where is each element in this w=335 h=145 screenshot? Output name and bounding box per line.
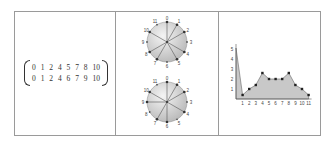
pitch-label: 7 [154, 121, 157, 126]
permutation-matrix: 0 1 2 4 5 7 8 10 0 1 2 4 6 7 9 10 [24, 60, 108, 86]
pitch-label: 11 [153, 19, 158, 24]
matrix-cell: 10 [92, 74, 100, 83]
pitch-label: 11 [153, 79, 158, 84]
matrix-cell: 7 [75, 63, 79, 72]
circle-tick [166, 61, 168, 63]
data-point [294, 84, 296, 86]
pitch-label: 4 [187, 52, 190, 57]
x-tick-label: 10 [299, 101, 305, 106]
data-point [268, 78, 270, 80]
matrix-cell: 1 [41, 74, 45, 83]
circle-diagram-top: 01234567891011 [142, 16, 193, 69]
spoke-point [166, 81, 169, 84]
x-tick-label: 5 [268, 101, 271, 106]
x-tick-label: 1 [241, 101, 244, 106]
data-point [274, 78, 276, 80]
pitch-label: 8 [145, 112, 148, 117]
x-tick-label: 4 [261, 101, 264, 106]
pitch-label: 0 [166, 76, 169, 81]
spoke-point [156, 118, 159, 121]
pitch-label: 2 [187, 28, 190, 33]
pitch-label: 7 [154, 61, 157, 66]
x-tick-label: 2 [248, 101, 251, 106]
circle-tick [146, 41, 148, 43]
circle-tick [186, 101, 188, 103]
pitch-label: 4 [187, 112, 190, 117]
circle-tick [156, 24, 158, 26]
y-tick-label: 3 [231, 67, 234, 72]
pitch-label: 5 [178, 61, 181, 66]
x-tick-label: 6 [274, 101, 277, 106]
y-tick-label: 2 [231, 77, 234, 82]
y-tick-label: 5 [231, 47, 234, 52]
pitch-label: 5 [178, 121, 181, 126]
matrix-cell: 9 [84, 74, 88, 83]
pitch-label: 6 [166, 64, 169, 69]
data-point [301, 88, 303, 90]
pitch-label: 9 [142, 40, 145, 45]
circle-diagram-bottom: 01234567891011 [142, 76, 193, 129]
pitch-label: 9 [142, 100, 145, 105]
right-paren [102, 60, 108, 86]
area-fill [236, 48, 309, 99]
x-tick-label: 7 [281, 101, 284, 106]
matrix-cell: 0 [32, 74, 36, 83]
matrix-cell: 10 [92, 63, 100, 72]
matrix-row-1: 0 1 2 4 5 7 8 10 [32, 63, 100, 72]
circle-tick [149, 111, 151, 113]
spoke-point [183, 31, 186, 34]
x-tick-label: 9 [294, 101, 297, 106]
spoke-point [146, 101, 149, 104]
x-tick-label: 3 [255, 101, 258, 106]
x-tick-label: 8 [288, 101, 291, 106]
matrix-cell: 8 [84, 63, 88, 72]
spoke-point [183, 51, 186, 54]
data-point [241, 94, 243, 96]
matrix-cell: 4 [58, 74, 62, 83]
pitch-class-circles: 01234567891011 01234567891011 [116, 12, 218, 135]
spoke-point [166, 21, 169, 24]
matrix-cell: 7 [75, 74, 79, 83]
pitch-label: 1 [178, 79, 181, 84]
data-point [281, 78, 283, 80]
matrix-cell: 5 [67, 63, 71, 72]
spoke-point [183, 111, 186, 114]
matrix-cell: 2 [49, 63, 53, 72]
data-point [307, 94, 309, 96]
x-tick-label: 11 [306, 101, 311, 106]
spoke-point [176, 58, 179, 61]
pitch-label: 8 [145, 52, 148, 57]
matrix-row-2: 0 1 2 4 6 7 9 10 [32, 74, 100, 83]
pitch-label: 0 [166, 16, 169, 21]
y-tick-label: 1 [231, 87, 234, 92]
circle-tick [156, 84, 158, 86]
area-chart: 123456789101112345 [219, 12, 321, 135]
spoke-point [166, 121, 169, 124]
spoke-point [148, 31, 151, 34]
left-paren [24, 60, 30, 86]
spoke-point [156, 58, 159, 61]
pitch-label: 1 [178, 19, 181, 24]
matrix-cell: 0 [32, 63, 36, 72]
pitch-label: 6 [166, 124, 169, 129]
matrix-cell: 6 [67, 74, 71, 83]
spoke-point [148, 51, 151, 54]
matrix-cell: 4 [58, 63, 62, 72]
data-point [248, 88, 250, 90]
data-point [288, 72, 290, 74]
matrix-cell: 1 [41, 63, 45, 72]
pitch-label: 2 [187, 88, 190, 93]
pitch-label: 3 [190, 40, 193, 45]
circle-tick [186, 41, 188, 43]
y-tick-label: 4 [231, 57, 234, 62]
spoke-point [148, 91, 151, 94]
data-point [261, 72, 263, 74]
pitch-label: 3 [190, 100, 193, 105]
spoke-point [176, 23, 179, 26]
spoke-point [176, 83, 179, 86]
data-point [255, 84, 257, 86]
spoke-point [183, 91, 186, 94]
matrix-cell: 2 [49, 74, 53, 83]
